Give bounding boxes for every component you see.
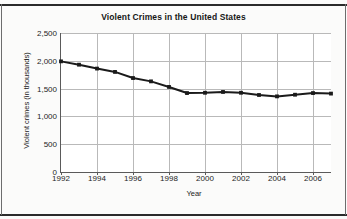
x-tick-label: 1998 [160,174,178,183]
y-tick-label: 2,000 [37,56,57,65]
data-point-marker [275,94,279,98]
page-top-rule [0,4,347,6]
x-tick-label: 1996 [124,174,142,183]
x-tick-label: 1992 [52,174,70,183]
data-point-marker [59,59,63,63]
x-axis-title: Year [58,189,330,198]
page-right-rule [345,4,346,215]
y-tick-label: 2,500 [37,29,57,38]
data-point-marker [311,91,315,95]
data-point-marker [77,63,81,67]
data-point-marker [293,93,297,97]
y-axis-title: Violent crimes (in thousands) [22,31,31,171]
x-tick-label: 2000 [196,174,214,183]
chart-title: Violent Crimes in the United States [0,12,347,22]
data-point-marker [131,76,135,80]
series-polyline [61,61,331,96]
x-tick-label: 1994 [88,174,106,183]
page-left-rule [1,4,2,215]
data-point-marker [239,91,243,95]
data-point-marker [203,91,207,95]
data-point-marker [257,93,261,97]
y-tick-label: 1,500 [37,84,57,93]
x-tick-label: 2006 [304,174,322,183]
x-tick-label: 2002 [232,174,250,183]
y-tick-label: 1,000 [37,112,57,121]
data-point-marker [113,70,117,74]
y-tick-label: 500 [44,140,57,149]
data-point-marker [167,85,171,89]
data-series-line [61,33,331,172]
data-point-marker [221,90,225,94]
data-point-marker [95,67,99,71]
data-point-marker [185,91,189,95]
x-tick-label: 2004 [268,174,286,183]
plot-area: 05001,0001,5002,0002,500 199219941996199… [60,33,331,173]
data-point-marker [329,92,333,96]
page-bottom-rule [0,214,347,216]
data-point-marker [149,79,153,83]
chart-screenshot: Violent Crimes in the United States Viol… [0,0,347,219]
